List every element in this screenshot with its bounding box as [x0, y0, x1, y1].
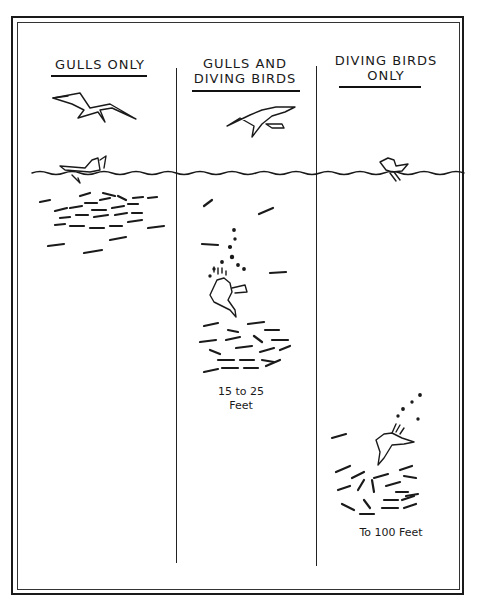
bubbles	[209, 229, 245, 277]
depth-label-line: To 100 Feet	[336, 526, 446, 540]
diving-bird-underwater-icon	[376, 424, 414, 465]
flying-gull-icon	[227, 107, 295, 137]
floating-diving-bird-icon	[380, 158, 408, 181]
bubbles	[397, 394, 421, 420]
depth-label-line: Feet	[196, 399, 286, 413]
fish-school-deep	[332, 434, 418, 514]
depth-label-line: 15 to 25	[196, 385, 286, 399]
flying-gull-icon	[53, 93, 136, 122]
illustration	[0, 0, 485, 613]
floating-gull-icon	[60, 156, 106, 183]
fish-school-surface	[40, 193, 164, 253]
diving-bird-underwater-icon	[210, 267, 247, 317]
depth-label-deep: To 100 Feet	[336, 526, 446, 540]
depth-label-mid: 15 to 25 Feet	[196, 385, 286, 413]
